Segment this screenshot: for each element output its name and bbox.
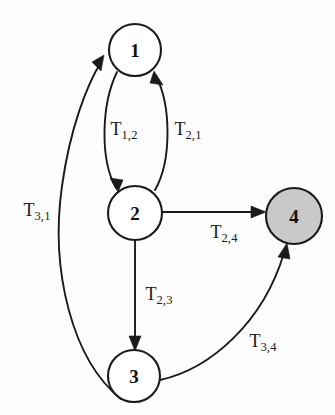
edge-label-2-3-base: T bbox=[145, 284, 156, 304]
edge-label-3-4-base: T bbox=[249, 331, 260, 351]
edge-label-3-1-base: T bbox=[23, 200, 34, 220]
edge-label-1-2: T1,2 bbox=[110, 120, 137, 142]
edge-2-to-1[interactable] bbox=[150, 71, 168, 190]
edge-label-3-1: T3,1 bbox=[23, 201, 50, 223]
edge-label-1-2-base: T bbox=[110, 119, 121, 139]
edge-label-2-1-base: T bbox=[174, 119, 185, 139]
edge-3-to-1-path bbox=[59, 62, 121, 399]
edge-2-to-1-path bbox=[155, 76, 168, 190]
diagram-canvas: 1 2 3 4 T1,2 T2,1 T3,1 T2,4 T2,3 T3,4 bbox=[0, 0, 335, 415]
edge-label-2-3-sub: 2,3 bbox=[156, 293, 172, 307]
edge-label-3-4: T3,4 bbox=[249, 332, 276, 354]
edge-3-to-4-arrowhead bbox=[278, 243, 290, 259]
edge-2-to-3[interactable] bbox=[129, 241, 141, 351]
edge-2-to-4[interactable] bbox=[162, 206, 266, 218]
edge-label-2-4: T2,4 bbox=[210, 223, 237, 245]
edge-label-2-4-sub: 2,4 bbox=[221, 231, 237, 245]
edge-label-1-2-sub: 1,2 bbox=[121, 128, 137, 142]
edge-3-to-4[interactable] bbox=[160, 243, 290, 380]
node-1-label: 1 bbox=[130, 41, 140, 60]
edge-label-3-1-sub: 3,1 bbox=[34, 209, 50, 223]
edge-label-3-4-sub: 3,4 bbox=[260, 340, 276, 354]
edge-label-2-4-base: T bbox=[210, 222, 221, 242]
node-3-label: 3 bbox=[129, 367, 139, 386]
edge-3-to-4-path bbox=[160, 253, 284, 380]
node-4-label: 4 bbox=[289, 207, 299, 226]
edge-label-2-1: T2,1 bbox=[174, 120, 201, 142]
edge-label-2-3: T2,3 bbox=[145, 285, 172, 307]
edge-label-2-1-sub: 2,1 bbox=[185, 128, 201, 142]
edge-2-to-1-arrowhead bbox=[150, 71, 163, 85]
edge-2-to-4-arrowhead bbox=[251, 206, 266, 218]
node-2-label: 2 bbox=[130, 204, 140, 223]
edge-2-to-3-arrowhead bbox=[129, 336, 141, 351]
